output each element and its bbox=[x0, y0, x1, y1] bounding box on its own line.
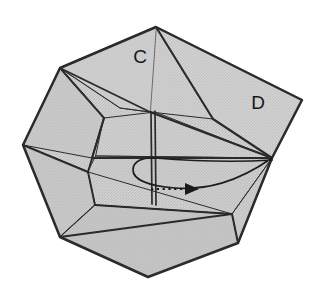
origami-diagram-canvas: C D bbox=[0, 0, 318, 290]
facet-label-c: C bbox=[133, 46, 147, 67]
facet-label-d: D bbox=[251, 92, 265, 113]
origami-figure: C D bbox=[0, 0, 318, 290]
